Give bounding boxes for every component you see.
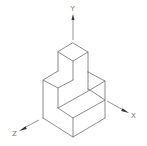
stepped-block bbox=[43, 43, 105, 137]
z-axis: Z bbox=[12, 120, 39, 138]
y-axis: Y bbox=[70, 5, 76, 40]
y-arrow-icon bbox=[72, 14, 75, 20]
isometric-diagram: Y X Z bbox=[0, 0, 147, 146]
z-arrow-icon bbox=[19, 126, 27, 131]
x-axis-label: X bbox=[131, 112, 136, 120]
y-axis-label: Y bbox=[70, 5, 76, 13]
x-arrow-icon bbox=[121, 108, 129, 113]
x-axis: X bbox=[107, 101, 136, 120]
z-axis-label: Z bbox=[12, 130, 17, 138]
